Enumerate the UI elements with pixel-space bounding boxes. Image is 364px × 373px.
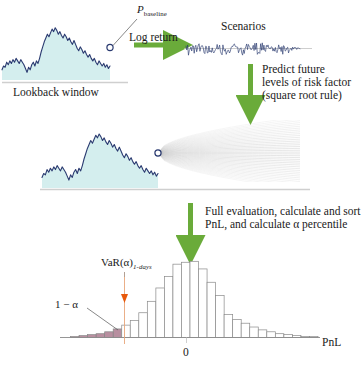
fan-ray [158, 153, 300, 163]
fan-ray [158, 128, 300, 153]
one-minus-alpha-label: 1 − α [55, 298, 78, 310]
histogram-bar [207, 282, 216, 337]
fan-ray [158, 153, 300, 154]
fan-ray [158, 147, 300, 153]
fan-ray [158, 134, 300, 153]
histogram-bar [130, 320, 139, 337]
histogram-bar [301, 337, 310, 338]
diagram-graphics [0, 0, 364, 373]
fan-ray [158, 153, 300, 183]
fan-ray [158, 145, 300, 153]
histogram-bar [199, 269, 208, 338]
fan-ray [158, 153, 300, 167]
histogram-bar-tail [88, 335, 97, 338]
lookback-window-label: Lookback window [13, 86, 99, 99]
var-workflow-diagram: Pbaseline Lookback window Log return Sce… [0, 0, 364, 373]
histogram-bar [190, 261, 199, 337]
fan-ray [158, 153, 300, 187]
histogram-bar [122, 325, 131, 337]
fan-ray [158, 153, 300, 165]
full-evaluation-label: Full evaluation, calculate and sort PnL,… [205, 205, 361, 231]
histogram-bar [292, 336, 301, 338]
fan-ray [158, 121, 300, 153]
fan-ray [158, 135, 300, 153]
predict-future-line3: (square root rule) [262, 89, 342, 101]
histogram-bar [233, 319, 242, 337]
fan-ray [158, 153, 300, 180]
scenarios-chart [184, 43, 312, 55]
fan-ray [158, 143, 300, 153]
histogram-bar [181, 262, 190, 337]
histogram-bar [267, 332, 276, 338]
pnl-axis-label: PnL [322, 336, 341, 349]
fan-ray [158, 152, 300, 153]
pnl-distribution-histogram [60, 261, 320, 344]
fan-ray [158, 153, 300, 171]
fan-ray [158, 119, 300, 153]
fan-ray [158, 123, 300, 153]
histogram-bar [241, 323, 250, 337]
fan-ray [158, 153, 300, 176]
fan-ray [158, 153, 300, 169]
predict-future-line1: Predict future [262, 63, 325, 75]
histogram-bars [71, 261, 318, 337]
fan-ray [158, 148, 300, 153]
fan-ray [158, 153, 300, 182]
var-marker-triangle [121, 294, 128, 303]
fan-pivot-marker [155, 150, 161, 156]
fan-ray [158, 153, 300, 172]
fan-ray [158, 153, 300, 185]
histogram-bar [164, 277, 173, 338]
histogram-bar [216, 296, 225, 338]
lookback-area-fill [2, 28, 110, 80]
full-evaluation-line1: Full evaluation, calculate and sort [205, 205, 361, 217]
histogram-bar-tail [71, 337, 80, 338]
fan-ray [158, 137, 300, 153]
fan-ray [158, 132, 300, 153]
histogram-bar-tail [96, 334, 105, 338]
fan-ray [158, 130, 300, 153]
histogram-bar [309, 337, 318, 338]
scenario-fan-rays [158, 117, 300, 189]
histogram-bar [258, 330, 267, 338]
fan-ray [158, 139, 300, 153]
zero-tick-label: 0 [183, 346, 189, 359]
p-baseline-marker [107, 44, 113, 50]
histogram-bar [156, 288, 165, 338]
histogram-bar [275, 334, 284, 338]
fan-ray [158, 117, 300, 153]
fan-history-area-fill [42, 134, 158, 188]
fan-ray [158, 153, 300, 156]
histogram-bar-tail [79, 336, 88, 338]
lookback-price-line [2, 28, 110, 73]
histogram-bar [284, 335, 293, 338]
histogram-bar [224, 315, 233, 338]
histogram-bar [147, 301, 156, 337]
predict-future-line2: levels of risk factor [262, 76, 351, 88]
log-return-label: Log return [129, 31, 178, 44]
full-evaluation-line2: PnL, and calculate α percentile [205, 218, 347, 230]
histogram-bar [139, 313, 148, 338]
fan-ray [158, 126, 300, 153]
fan-ray [158, 153, 300, 159]
fan-history-price-line [42, 134, 158, 180]
p-baseline-label: Pbaseline [137, 3, 167, 18]
fan-ray [158, 153, 300, 174]
fan-ray [158, 150, 300, 153]
histogram-bar-tail [105, 332, 114, 338]
scenarios-label: Scenarios [221, 20, 266, 33]
histogram-bar [173, 264, 182, 337]
fan-ray [158, 153, 300, 158]
predict-future-label: Predict future levels of risk factor (sq… [262, 63, 351, 102]
fan-ray [158, 124, 300, 153]
var-label: VaR(α)1-days [101, 256, 152, 271]
histogram-bar-tail [113, 329, 122, 338]
predicted-levels-fan-chart [40, 117, 310, 190]
fan-ray [158, 141, 300, 153]
one-minus-alpha-leader-line [87, 308, 118, 330]
fan-ray [158, 153, 300, 178]
fan-ray [158, 153, 300, 189]
fan-ray [158, 153, 300, 161]
lookback-window-chart [2, 19, 137, 83]
histogram-bar [250, 327, 259, 337]
